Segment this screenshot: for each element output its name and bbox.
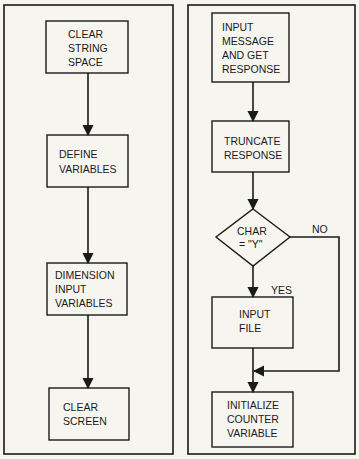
no-label: NO bbox=[312, 223, 328, 235]
step-dimension-line-1: DIMENSION bbox=[55, 269, 115, 281]
step-clear-screen-line-1: CLEAR bbox=[63, 401, 98, 413]
step-input-message-line-3: AND GET bbox=[222, 49, 269, 61]
decision-line-1: CHAR bbox=[237, 225, 267, 237]
step-initialize-line-1: INITIALIZE bbox=[227, 399, 279, 411]
step-input-file-line-1: INPUT bbox=[239, 308, 271, 320]
step-truncate-line-1: TRUNCATE bbox=[224, 135, 280, 147]
step-define-variables bbox=[47, 135, 128, 187]
step-clear-screen-line-2: SCREEN bbox=[63, 415, 107, 427]
step-input-message-line-1: INPUT bbox=[222, 21, 254, 33]
step-clear-string-space-line-1: CLEAR bbox=[68, 28, 103, 40]
step-dimension-line-2: INPUT bbox=[55, 283, 87, 295]
step-initialize-line-2: COUNTER bbox=[227, 413, 279, 425]
step-dimension-line-3: VARIABLES bbox=[55, 297, 113, 309]
step-input-message-line-4: RESPONSE bbox=[222, 63, 280, 75]
step-clear-string-space-line-2: STRING bbox=[68, 42, 108, 54]
flowchart-canvas: CLEAR STRING SPACE DEFINE VARIABLES DIME… bbox=[0, 0, 359, 459]
step-initialize-line-3: VARIABLE bbox=[227, 427, 278, 439]
step-define-variables-line-1: DEFINE bbox=[59, 148, 98, 160]
step-clear-string-space-line-3: SPACE bbox=[68, 56, 103, 68]
no-branch-line bbox=[254, 237, 339, 371]
step-clear-screen bbox=[49, 388, 129, 440]
step-input-message-line-2: MESSAGE bbox=[222, 35, 274, 47]
decision-line-2: = "Y" bbox=[239, 238, 263, 250]
yes-label: YES bbox=[271, 284, 292, 296]
step-input-file-line-2: FILE bbox=[239, 322, 261, 334]
step-truncate-line-2: RESPONSE bbox=[224, 149, 282, 161]
step-define-variables-line-2: VARIABLES bbox=[59, 163, 117, 175]
